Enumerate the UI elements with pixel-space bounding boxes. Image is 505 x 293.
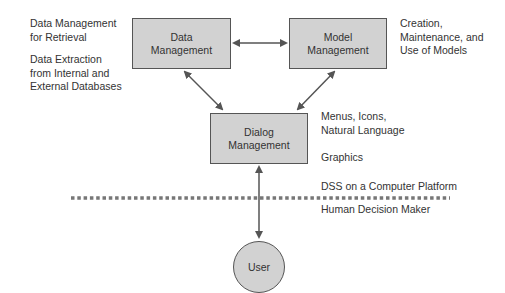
note-data-retrieval: Data Management for Retrieval [30, 17, 116, 44]
note-dialog-graphics: Graphics [321, 151, 363, 165]
note-platform: DSS on a Computer Platform [321, 180, 457, 194]
data-management-line2: Management [151, 44, 212, 57]
note-line: Use of Models [400, 44, 483, 58]
note-line: Creation, [400, 17, 483, 31]
arrow-data-dialog [185, 72, 222, 109]
note-dialog-menus: Menus, Icons, Natural Language [321, 110, 404, 137]
note-line: for Retrieval [30, 31, 116, 45]
dialog-management-box: Dialog Management [210, 113, 308, 164]
note-line: Data Extraction [30, 53, 122, 67]
data-management-box: Data Management [132, 18, 231, 69]
note-line: Menus, Icons, [321, 110, 404, 124]
user-circle: User [233, 241, 285, 293]
note-line: Maintenance, and [400, 31, 483, 45]
note-human: Human Decision Maker [321, 203, 430, 217]
user-label: User [248, 261, 270, 273]
note-data-extraction: Data Extraction from Internal and Extern… [30, 53, 122, 94]
model-management-box: Model Management [289, 18, 387, 69]
note-line: from Internal and [30, 67, 122, 81]
dialog-management-line2: Management [228, 139, 289, 152]
model-management-line1: Model [307, 31, 368, 44]
data-management-line1: Data [151, 31, 212, 44]
arrow-model-dialog [298, 72, 334, 109]
note-line: Data Management [30, 17, 116, 31]
model-management-line2: Management [307, 44, 368, 57]
note-model: Creation, Maintenance, and Use of Models [400, 17, 483, 58]
note-line: External Databases [30, 80, 122, 94]
dialog-management-line1: Dialog [228, 126, 289, 139]
note-line: Natural Language [321, 124, 404, 138]
